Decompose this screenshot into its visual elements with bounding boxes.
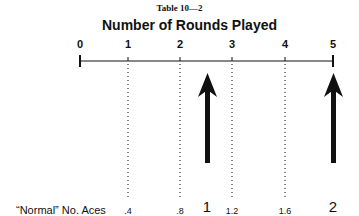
aces-value-0.4: .4 <box>116 206 140 216</box>
rounds-axis-diagram <box>0 0 359 216</box>
aces-value-1: 1 <box>197 198 217 215</box>
up-arrow-icon <box>324 73 343 163</box>
aces-value-0.8: .8 <box>168 206 192 216</box>
aces-value-2: 2 <box>323 198 343 215</box>
aces-value-1.6: 1.6 <box>273 206 297 216</box>
aces-value-1.2: 1.2 <box>220 206 244 216</box>
normal-aces-label: “Normal” No. Aces <box>16 204 106 216</box>
up-arrow-icon <box>198 73 217 163</box>
